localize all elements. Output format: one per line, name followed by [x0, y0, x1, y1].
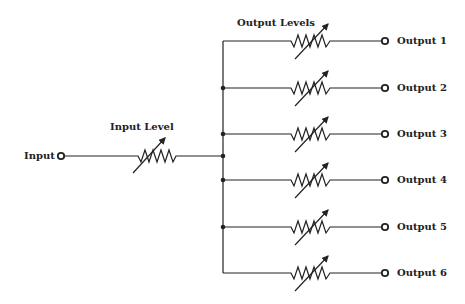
output-terminal-icon: [382, 38, 388, 44]
output-2-label: Output 2: [397, 82, 447, 94]
circuit-lines: [0, 0, 465, 304]
output-resistor-icon: [288, 35, 334, 47]
output-levels-label: Output Levels: [237, 17, 315, 29]
output-terminal-icon: [382, 224, 388, 230]
output-row-1: [223, 24, 388, 59]
output-resistor-icon: [288, 82, 334, 94]
circuit-diagram: Input Input Level Output Levels Output 1…: [0, 0, 465, 304]
output-terminal-icon: [382, 177, 388, 183]
output-terminal-icon: [382, 270, 388, 276]
output-4-label: Output 4: [397, 174, 447, 186]
output-row-5: [223, 210, 388, 245]
input-terminal-icon: [58, 153, 64, 159]
input-resistor-icon: [134, 150, 180, 162]
output-terminal-icon: [382, 131, 388, 137]
output-resistor-icon: [288, 174, 334, 186]
input-level-label: Input Level: [110, 121, 174, 133]
output-row-6: [223, 256, 388, 291]
output-row-2: [223, 71, 388, 106]
output-5-label: Output 5: [397, 221, 447, 233]
output-resistor-icon: [288, 128, 334, 140]
input-label: Input: [24, 150, 55, 162]
output-3-label: Output 3: [397, 128, 447, 140]
output-row-4: [223, 163, 388, 198]
output-resistor-icon: [288, 221, 334, 233]
output-resistor-icon: [288, 267, 334, 279]
junction-dot-icon: [221, 154, 226, 159]
output-row-3: [223, 117, 388, 152]
output-terminal-icon: [382, 85, 388, 91]
output-6-label: Output 6: [397, 267, 447, 279]
output-1-label: Output 1: [397, 35, 447, 47]
